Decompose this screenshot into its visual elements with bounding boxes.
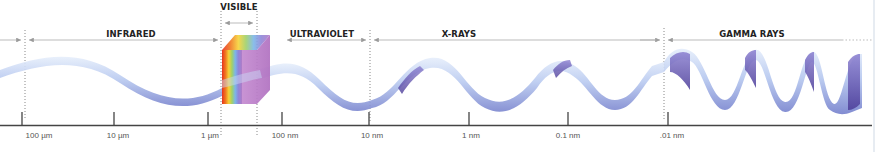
- tick-label-0-1nm: 0.1 nm: [556, 131, 580, 140]
- tick-label-1nm: 1 nm: [462, 131, 480, 140]
- spectrum-graphic: [0, 0, 894, 152]
- visible-light-prism: [222, 35, 270, 104]
- band-label-ultraviolet: ULTRAVIOLET: [290, 29, 354, 39]
- tick-label-10um: 10 µm: [107, 131, 129, 140]
- em-spectrum-diagram: INFRARED VISIBLE ULTRAVIOLET X-RAYS GAMM…: [0, 0, 894, 152]
- wavelength-axis: [0, 112, 872, 126]
- band-label-x-rays: X-RAYS: [442, 29, 477, 39]
- tick-label-1um: 1 µm: [201, 131, 219, 140]
- wave-ribbon: [0, 49, 862, 114]
- tick-label-100um: 100 µm: [26, 131, 53, 140]
- band-label-infrared: INFRARED: [106, 29, 155, 39]
- tick-label-100nm: 100 nm: [272, 131, 299, 140]
- band-label-visible: VISIBLE: [220, 2, 257, 12]
- band-label-gamma-rays: GAMMA RAYS: [719, 29, 785, 39]
- tick-label-0-01nm: .01 nm: [660, 131, 684, 140]
- tick-label-10nm: 10 nm: [361, 131, 383, 140]
